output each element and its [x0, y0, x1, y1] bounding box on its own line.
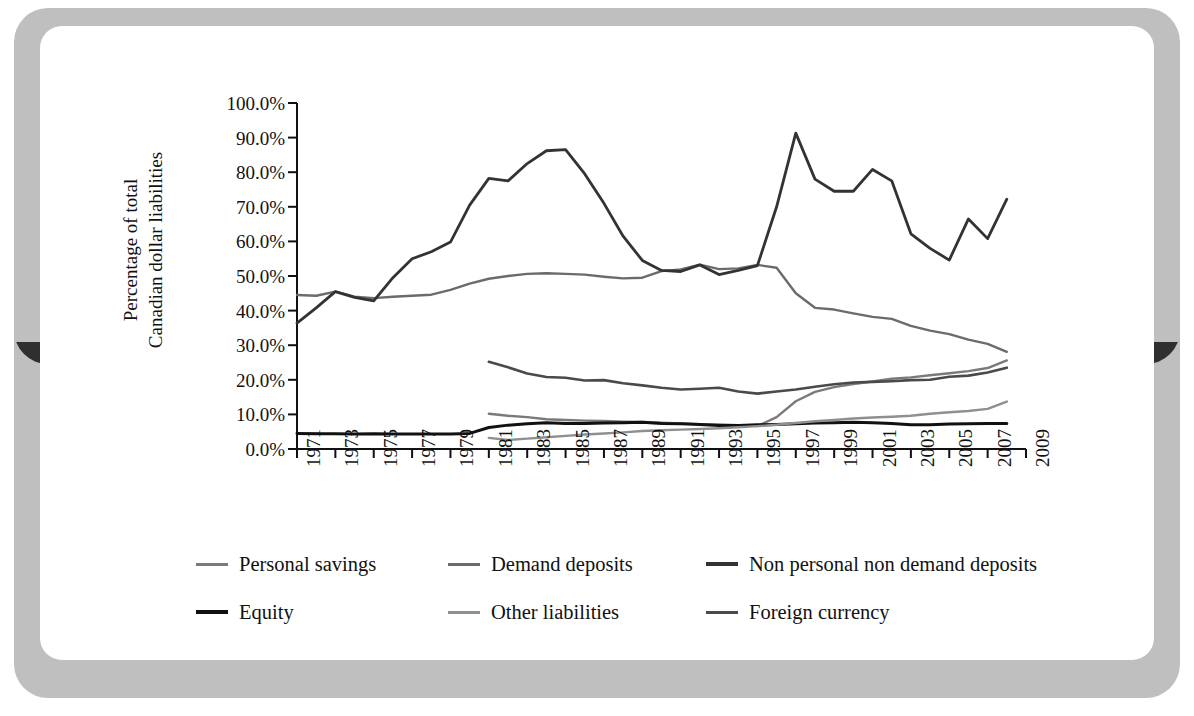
y-axis-tick-label: 20.0%	[180, 371, 285, 390]
x-axis-tick-label: 1993	[726, 429, 745, 467]
y-axis-tick-label: 70.0%	[180, 198, 285, 217]
legend-item-label: Non personal non demand deposits	[749, 553, 1037, 576]
series-line-demand-deposits	[297, 265, 1007, 352]
x-axis-tick-label: 1999	[841, 429, 860, 467]
legend-item[interactable]: Other liabilities	[448, 601, 706, 624]
x-axis-tick-label: 2001	[880, 429, 899, 467]
legend-item-label: Foreign currency	[749, 601, 890, 624]
x-axis-tick-label: 1991	[688, 429, 707, 467]
x-axis-tick-label: 1977	[419, 429, 438, 467]
chart-axes	[288, 103, 1026, 458]
x-axis-tick-label: 1997	[803, 429, 822, 467]
y-axis-tick-label: 50.0%	[180, 267, 285, 286]
legend-item[interactable]: Equity	[196, 601, 448, 624]
legend-item[interactable]: Personal savings	[196, 553, 448, 576]
legend-item-label: Other liabilities	[491, 601, 619, 624]
x-axis-tick-label: 1983	[534, 429, 553, 467]
x-axis-tick-label: 1989	[649, 429, 668, 467]
x-axis-tick-label: 2003	[918, 429, 937, 467]
y-axis-tick-label: 10.0%	[180, 405, 285, 424]
series-line-non-personal-non-demand-deposits	[297, 133, 1007, 323]
series-line-foreign-currency	[489, 362, 1007, 394]
chart-legend: Personal savingsDemand depositsNon perso…	[196, 540, 1096, 636]
x-axis-tick-label: 2007	[995, 429, 1014, 467]
y-axis-tick-label: 0.0%	[180, 440, 285, 459]
legend-item[interactable]: Demand deposits	[448, 553, 706, 576]
chart-series-lines	[297, 133, 1007, 440]
legend-item-label: Demand deposits	[491, 553, 633, 576]
y-axis-title: Percentage of total Canadian dollar liab…	[118, 100, 168, 400]
line-chart: Percentage of total Canadian dollar liab…	[0, 0, 1194, 716]
x-axis-tick-label: 2009	[1033, 429, 1052, 467]
x-axis-tick-label: 1981	[496, 429, 515, 467]
y-axis-title-line-1: Percentage of total	[118, 100, 143, 400]
y-axis-tick-label: 60.0%	[180, 232, 285, 251]
legend-line-swatch-icon	[448, 611, 480, 614]
y-axis-tick-label: 30.0%	[180, 336, 285, 355]
legend-line-swatch-icon	[706, 611, 738, 614]
legend-item-label: Personal savings	[239, 553, 376, 576]
y-axis-tick-label: 100.0%	[180, 94, 285, 113]
y-axis-tick-label: 80.0%	[180, 163, 285, 182]
legend-line-swatch-icon	[196, 563, 228, 566]
legend-item[interactable]: Non personal non demand deposits	[706, 553, 1096, 576]
x-axis-tick-label: 1973	[342, 429, 361, 467]
x-axis-tick-label: 1971	[304, 429, 323, 467]
legend-line-swatch-icon	[706, 562, 738, 566]
legend-item[interactable]: Foreign currency	[706, 601, 1096, 624]
x-axis-tick-label: 1987	[611, 429, 630, 467]
x-axis-tick-label: 1975	[381, 429, 400, 467]
y-axis-tick-label: 40.0%	[180, 302, 285, 321]
x-axis-tick-label: 1985	[573, 429, 592, 467]
legend-line-swatch-icon	[196, 610, 228, 614]
y-axis-title-line-2: Canadian dollar liabilities	[143, 100, 168, 400]
x-axis-tick-label: 1995	[764, 429, 783, 467]
x-axis-tick-label: 1979	[457, 429, 476, 467]
y-axis-tick-label: 90.0%	[180, 129, 285, 148]
legend-line-swatch-icon	[448, 563, 480, 566]
legend-item-label: Equity	[239, 601, 294, 624]
x-axis-tick-label: 2005	[956, 429, 975, 467]
